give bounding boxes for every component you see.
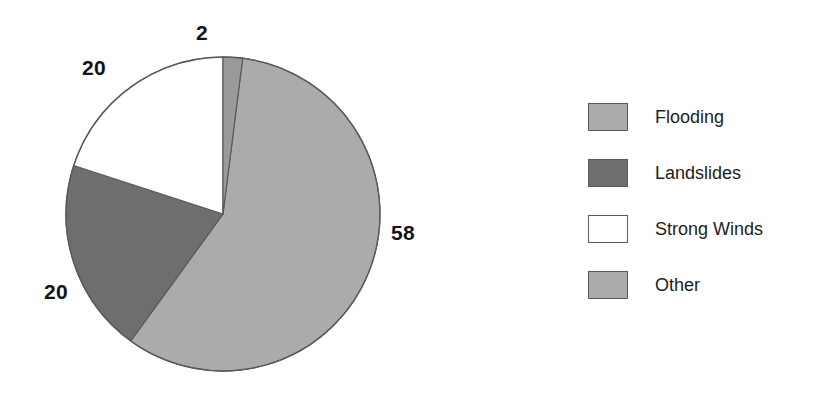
pie-chart-figure: 2 20 20 58 Flooding Landslides Strong Wi…	[0, 0, 815, 395]
pie-label-strong-winds: 20	[82, 57, 106, 78]
legend-swatch-other	[588, 271, 628, 299]
legend-swatch-strong-winds	[588, 215, 628, 243]
legend-label-strong-winds: Strong Winds	[655, 220, 763, 238]
legend-item-landslides[interactable]: Landslides	[588, 159, 813, 187]
legend-swatch-flooding	[588, 103, 628, 131]
pie-chart-svg	[0, 0, 470, 395]
legend-label-other: Other	[655, 276, 700, 294]
pie-label-other: 2	[196, 22, 208, 43]
legend-label-landslides: Landslides	[655, 164, 741, 182]
chart-legend: Flooding Landslides Strong Winds Other	[588, 103, 813, 299]
legend-swatch-landslides	[588, 159, 628, 187]
pie-label-landslides: 20	[44, 281, 68, 302]
legend-item-strong-winds[interactable]: Strong Winds	[588, 215, 813, 243]
legend-label-flooding: Flooding	[655, 108, 724, 126]
pie-plot-area: 2 20 20 58	[0, 0, 470, 395]
legend-item-flooding[interactable]: Flooding	[588, 103, 813, 131]
pie-label-flooding: 58	[391, 222, 415, 243]
legend-item-other[interactable]: Other	[588, 271, 813, 299]
